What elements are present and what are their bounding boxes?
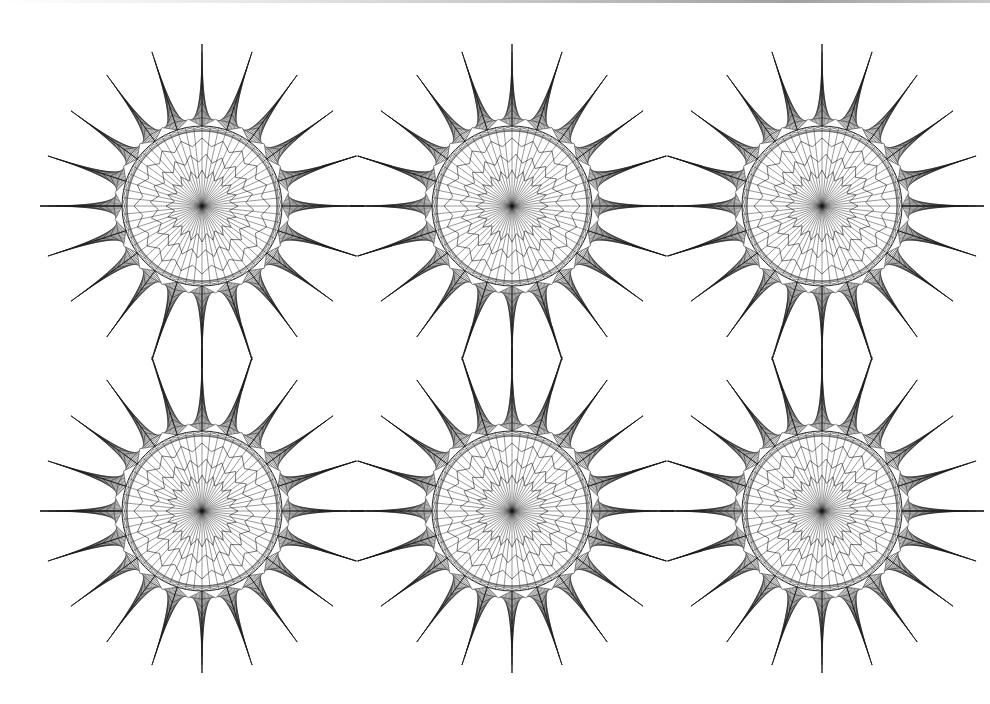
star-2-2	[350, 349, 674, 673]
star-1-2	[350, 44, 674, 368]
star-pattern-drawing	[0, 0, 990, 704]
